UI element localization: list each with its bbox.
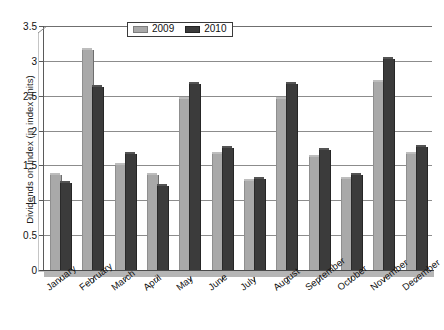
bar-face [416,147,428,270]
bar-september-2010[interactable] [319,150,329,270]
bar-group [238,26,270,270]
bar-group [335,26,367,270]
legend-label-2009: 2009 [152,24,174,34]
bar-top-cap [82,48,92,50]
bar-top-cap [179,97,189,99]
bar-december-2010[interactable] [416,147,426,270]
bar-february-2009[interactable] [82,50,92,270]
bar-december-2009[interactable] [406,154,416,270]
y-tick-label: 1 [31,195,37,206]
bar-march-2010[interactable] [125,154,135,270]
y-tick-label: 2.5 [23,90,37,101]
bar-top-cap [244,179,254,181]
bar-top-cap [254,177,264,179]
bar-top-cap [60,181,70,183]
bar-group [303,26,335,270]
bar-top-cap [309,155,319,157]
bar-january-2009[interactable] [50,175,60,271]
bar-group [400,26,432,270]
bar-top-cap [147,173,157,175]
bar-group [270,26,302,270]
y-tick-label: 3.5 [23,21,37,32]
bar-group [206,26,238,270]
legend-swatch-2009-icon [133,26,148,33]
bar-january-2010[interactable] [60,183,70,270]
bar-top-cap [416,145,426,147]
y-tick-label: 2 [31,125,37,136]
bar-group [109,26,141,270]
y-tick-label: 0 [31,265,37,276]
bar-top-cap [125,152,135,154]
bar-face [222,148,234,270]
bar-top-cap [373,80,383,82]
chart-legend[interactable]: 2009 2010 [127,22,233,37]
bar-top-cap [50,173,60,175]
bar-may-2010[interactable] [189,84,199,270]
bar-group [76,26,108,270]
bar-top-cap [286,82,296,84]
bar-top-cap [157,184,167,186]
bar-top-cap [222,146,232,148]
bar-face [319,150,331,270]
bar-november-2010[interactable] [383,59,393,270]
bar-july-2009[interactable] [244,181,254,270]
bar-top-cap [351,173,361,175]
bar-group [367,26,399,270]
bar-february-2010[interactable] [92,87,102,270]
bar-june-2009[interactable] [212,154,222,270]
bar-november-2009[interactable] [373,82,383,270]
legend-swatch-2010-icon [185,26,200,33]
bar-top-cap [212,152,222,154]
bar-august-2009[interactable] [276,99,286,270]
bar-face [92,87,104,270]
bar-april-2009[interactable] [147,175,157,271]
bar-april-2010[interactable] [157,186,167,270]
bar-face [157,186,169,270]
bar-face [286,84,298,270]
bars-layer [44,26,432,270]
y-tick-label: 3 [31,55,37,66]
legend-item-2010[interactable]: 2010 [185,24,226,34]
bar-face [254,179,266,270]
bar-face [189,84,201,270]
dividends-bar-chart: Dividends on Index (in index units) 00.5… [0,0,444,330]
bar-face [125,154,137,270]
bar-group [44,26,76,270]
bar-group [141,26,173,270]
bar-face [60,183,72,270]
bar-face [351,175,363,271]
bar-top-cap [189,82,199,84]
bar-october-2010[interactable] [351,175,361,271]
bar-top-cap [406,152,416,154]
plot-area: 00.511.522.533.5 [44,26,432,270]
bar-top-cap [319,148,329,150]
y-tick-label: 0.5 [23,230,37,241]
bar-top-cap [341,177,351,179]
bar-top-cap [276,97,286,99]
legend-label-2010: 2010 [204,24,226,34]
bar-august-2010[interactable] [286,84,296,270]
bar-top-cap [115,163,125,165]
y-tick-label: 1.5 [23,160,37,171]
legend-item-2009[interactable]: 2009 [133,24,174,34]
bar-group [173,26,205,270]
bar-top-cap [383,57,393,59]
bar-october-2009[interactable] [341,179,351,270]
bar-march-2009[interactable] [115,165,125,270]
bar-face [383,59,395,270]
bar-june-2010[interactable] [222,148,232,270]
bar-may-2009[interactable] [179,99,189,270]
bar-top-cap [92,85,102,87]
bar-september-2009[interactable] [309,157,319,270]
bar-july-2010[interactable] [254,179,264,270]
